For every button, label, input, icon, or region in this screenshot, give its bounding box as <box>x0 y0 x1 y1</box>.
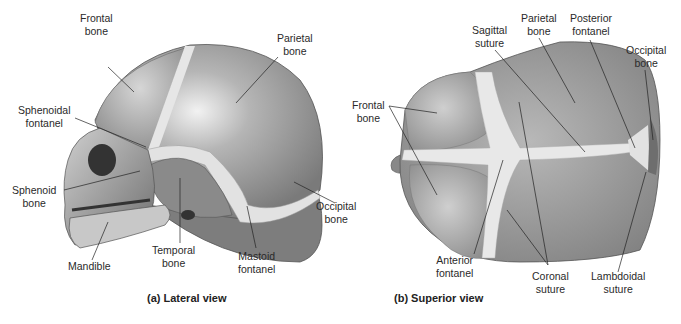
label-line: Occipital <box>626 44 666 57</box>
label-line: Coronal <box>532 270 569 283</box>
label-lateral-mandible: Mandible <box>68 260 111 273</box>
label-line: Parietal <box>521 12 557 25</box>
label-line: bone <box>352 112 385 125</box>
label-line: Mastoid <box>238 250 275 263</box>
label-line: Frontal <box>80 12 113 25</box>
label-line: Mandible <box>68 260 111 273</box>
label-lateral-mastoid-fontanel: Mastoid fontanel <box>238 250 275 276</box>
label-superior-lambdoidal-suture: Lambdoidal suture <box>591 270 645 296</box>
label-line: Sphenoidal <box>18 104 71 117</box>
label-superior-posterior-fontanel: Posterior fontanel <box>570 12 612 38</box>
label-superior-occipital-bone: Occipital bone <box>626 44 666 70</box>
label-line: Sagittal <box>472 24 507 37</box>
label-line: Lambdoidal <box>591 270 645 283</box>
label-line: fontanel <box>238 263 275 276</box>
label-superior-frontal-bone: Frontal bone <box>352 99 385 125</box>
label-line: bone <box>626 57 666 70</box>
label-lateral-parietal-bone: Parietal bone <box>277 32 313 58</box>
skull-illustrations <box>0 0 681 324</box>
label-line: bone <box>152 257 195 270</box>
label-line: Anterior <box>436 254 473 267</box>
label-line: bone <box>521 25 557 38</box>
label-superior-sagittal-suture: Sagittal suture <box>472 24 507 50</box>
label-line: bone <box>316 213 356 226</box>
label-line: fontanel <box>436 267 473 280</box>
label-line: bone <box>12 197 56 210</box>
label-lateral-occipital-bone: Occipital bone <box>316 200 356 226</box>
label-line: fontanel <box>18 117 71 130</box>
label-lateral-sphenoidal-fontanel: Sphenoidal fontanel <box>18 104 71 130</box>
label-line: Sphenoid <box>12 184 56 197</box>
label-line: Parietal <box>277 32 313 45</box>
label-line: Occipital <box>316 200 356 213</box>
label-superior-coronal-suture: Coronal suture <box>532 270 569 296</box>
label-lateral-temporal-bone: Temporal bone <box>152 244 195 270</box>
label-line: suture <box>532 283 569 296</box>
label-superior-parietal-bone: Parietal bone <box>521 12 557 38</box>
label-line: suture <box>472 37 507 50</box>
fetal-skull-figure: Frontal bone Parietal bone Sphenoidal fo… <box>0 0 681 324</box>
label-line: fontanel <box>570 25 612 38</box>
label-lateral-sphenoid-bone: Sphenoid bone <box>12 184 56 210</box>
label-line: bone <box>277 45 313 58</box>
lateral-skull-drawing <box>64 44 323 262</box>
label-line: bone <box>80 25 113 38</box>
caption-superior-view: (b) Superior view <box>394 292 483 304</box>
label-line: Posterior <box>570 12 612 25</box>
label-superior-anterior-fontanel: Anterior fontanel <box>436 254 473 280</box>
label-line: Frontal <box>352 99 385 112</box>
label-lateral-frontal-bone: Frontal bone <box>80 12 113 38</box>
superior-skull-drawing <box>391 42 660 262</box>
label-line: suture <box>591 283 645 296</box>
label-line: Temporal <box>152 244 195 257</box>
caption-lateral-view: (a) Lateral view <box>147 292 226 304</box>
